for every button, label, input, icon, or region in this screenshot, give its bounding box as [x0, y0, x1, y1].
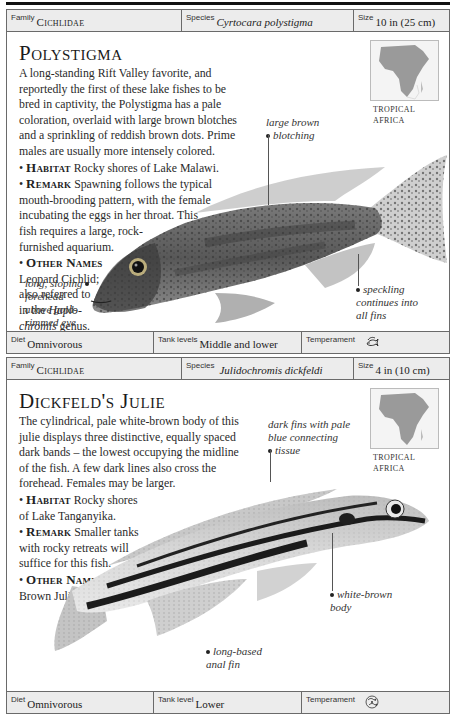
description-line: coloration, overlaid with large brown bl…	[19, 113, 269, 129]
description-line: A long-standing Rift Valley favorite, an…	[19, 66, 269, 82]
species-value: Julidochromis dickfeldi	[219, 364, 322, 376]
diet-cell: Diet Omnivorous	[7, 332, 154, 353]
callout-white-brown-body: white-brown body	[330, 588, 392, 614]
card-footer-strip: Diet Omnivorous Tank levels Middle and l…	[7, 331, 449, 353]
callout-text: tissue	[275, 444, 300, 456]
leader-line	[332, 533, 333, 591]
diet-cell: Diet Omnivorous	[7, 692, 154, 713]
family-cell: Family Cichlidae	[7, 10, 182, 31]
family-label: Family	[11, 361, 35, 370]
callout-text: long-based	[213, 645, 262, 657]
card-footer-strip: Diet Omnivorous Tank level Lower Tempera…	[7, 691, 449, 713]
map-region-label: TROPICAL AFRICA	[373, 104, 415, 126]
callout-large-brown-blotching: large brown blotching	[266, 116, 319, 142]
temperament-cell: Temperament	[302, 692, 449, 713]
callout-line: white-brown	[330, 588, 392, 601]
description-line: and a sprinkling of reddish brown dots. …	[19, 128, 269, 144]
africa-map-icon	[371, 41, 438, 100]
callout-line: blotching	[266, 129, 319, 142]
family-cell: Family Cichlidae	[7, 358, 182, 379]
callout-dot	[330, 593, 334, 597]
callout-dot	[85, 282, 89, 286]
callout-line: forehead	[25, 290, 92, 303]
species-cell: Species Cyrtocara polystigma	[182, 10, 354, 31]
temperament-label: Temperament	[306, 335, 355, 344]
callout-long-based-anal-fin: long-based anal fin	[206, 645, 262, 671]
callout-dot	[206, 650, 210, 654]
callout-line: body	[330, 601, 392, 614]
card-header-strip: Family Cichlidae Species Julidochromis d…	[7, 358, 449, 380]
fish-pair-aggressive-icon	[365, 335, 379, 353]
callout-text: speckling	[363, 283, 405, 295]
range-map	[370, 40, 439, 101]
species-title: Polystigma	[19, 41, 123, 66]
family-value: Cichlidae	[37, 16, 85, 28]
callout-line: long-based	[206, 645, 262, 658]
tank-value: Middle and lower	[200, 338, 278, 350]
tank-label: Tank levels	[158, 335, 198, 344]
callout-line: speckling	[356, 283, 418, 296]
description-line: The cylindrical, pale white-brown body o…	[19, 414, 269, 430]
callout-line: all fins	[356, 309, 418, 322]
leader-line	[358, 254, 359, 286]
description-line: reportedly the first of these lake fishe…	[19, 82, 269, 98]
diet-value: Omnivorous	[27, 338, 82, 350]
family-value: Cichlidae	[37, 364, 85, 376]
description-line: julie displays three distinctive, equall…	[19, 430, 269, 446]
callout-line: dark fins with pale	[268, 418, 350, 431]
map-label-line: TROPICAL	[373, 104, 415, 115]
species-card-dickfelds-julie: Family Cichlidae Species Julidochromis d…	[6, 357, 450, 714]
size-label: Size	[358, 13, 374, 22]
size-cell: Size 10 in (25 cm)	[354, 10, 449, 31]
species-label: Species	[186, 361, 214, 370]
tank-label: Tank level	[158, 695, 194, 704]
map-label-line: AFRICA	[373, 115, 415, 126]
temperament-label: Temperament	[306, 695, 355, 704]
callout-line: above gold-	[25, 303, 92, 316]
callout-line: large brown	[266, 116, 319, 129]
diet-label: Diet	[11, 695, 25, 704]
temperament-cell: Temperament	[302, 332, 449, 353]
dickfelds-julie-fish-illustration	[47, 471, 447, 661]
callout-dark-fins: dark fins with pale blue connecting tiss…	[268, 418, 350, 457]
size-value: 4 in (10 cm)	[376, 364, 430, 376]
callout-sloping-forehead: long, sloping forehead above gold- rimme…	[25, 277, 92, 329]
callout-line: blue connecting	[268, 431, 350, 444]
callout-text: long, sloping	[25, 277, 82, 289]
tank-cell: Tank level Lower	[154, 692, 302, 713]
callout-line: anal fin	[206, 658, 262, 671]
species-label: Species	[186, 13, 214, 22]
top-rule	[6, 2, 450, 5]
africa-map-icon	[371, 389, 438, 448]
callout-text: white-brown	[337, 588, 392, 600]
description-line: bred in captivity, the Polystigma has a …	[19, 97, 269, 113]
callout-line: tissue	[268, 444, 350, 457]
habitat-label: Habitat	[26, 160, 71, 175]
family-label: Family	[11, 13, 35, 22]
leader-line	[270, 450, 271, 482]
species-card-polystigma: Family Cichlidae Species Cyrtocara polys…	[6, 9, 450, 354]
description-line: dark bands – the lowest occupying the mi…	[19, 445, 269, 461]
callout-line: long, sloping	[25, 277, 92, 290]
tank-value: Lower	[196, 698, 225, 710]
species-title: Dickfeld's Julie	[19, 389, 165, 414]
card-header-strip: Family Cichlidae Species Cyrtocara polys…	[7, 10, 449, 32]
remark-label: Remark	[26, 176, 71, 191]
callout-text: blotching	[273, 129, 315, 141]
tank-cell: Tank levels Middle and lower	[154, 332, 302, 353]
map-label-line: TROPICAL	[373, 452, 415, 463]
size-value: 10 in (25 cm)	[376, 16, 436, 28]
fish-group-semi-aggressive-icon	[365, 695, 379, 713]
callout-dot	[356, 288, 360, 292]
size-label: Size	[358, 361, 374, 370]
callout-speckling: speckling continues into all fins	[356, 283, 418, 322]
species-value: Cyrtocara polystigma	[216, 16, 312, 28]
callout-line: rimmed eye	[25, 316, 92, 329]
size-cell: Size 4 in (10 cm)	[354, 358, 449, 379]
diet-label: Diet	[11, 335, 25, 344]
species-cell: Species Julidochromis dickfeldi	[182, 358, 354, 379]
leader-line	[268, 135, 269, 205]
range-map	[370, 388, 439, 449]
diet-value: Omnivorous	[27, 698, 82, 710]
callout-line: continues into	[356, 296, 418, 309]
